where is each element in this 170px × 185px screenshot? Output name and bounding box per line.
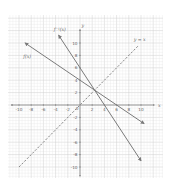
x-tick-label: -6	[41, 107, 46, 112]
function-inverse-graph: -10-8-6-4-2246810-10-8-6-4-22468100xy f(…	[0, 0, 170, 185]
curve-label: f⁻¹(x)	[53, 27, 66, 32]
x-tick-label: -10	[16, 107, 23, 112]
x-tick-label: -8	[29, 107, 34, 112]
y-tick-label: -6	[73, 140, 78, 145]
curve-y-equals-x	[19, 46, 138, 167]
y-tick-label: 2	[75, 90, 78, 95]
x-tick-label: 8	[127, 107, 130, 112]
x-tick-label: 2	[91, 107, 94, 112]
curves	[19, 35, 144, 167]
x-tick-label: 10	[138, 107, 144, 112]
y-tick-label: 6	[75, 65, 78, 70]
y-tick-label: -2	[73, 115, 78, 120]
x-tick-label: 6	[115, 107, 118, 112]
x-tick-label: -2	[66, 107, 71, 112]
x-tick-label: -4	[54, 107, 59, 112]
axes	[11, 29, 154, 176]
y-tick-label: -4	[73, 127, 78, 132]
y-tick-label: -10	[71, 165, 78, 170]
y-tick-label: 10	[72, 41, 78, 46]
y-tick-label: 8	[75, 53, 78, 58]
curve-label: f(x)	[22, 54, 31, 59]
y-tick-label: -8	[73, 152, 78, 157]
x-axis-label: x	[158, 103, 161, 108]
y-axis-label: y	[81, 23, 85, 29]
